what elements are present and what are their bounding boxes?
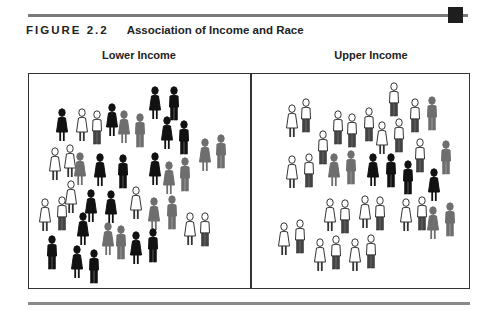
person-icon-white — [323, 198, 337, 236]
person-icon-black — [427, 168, 441, 206]
person-icon-white — [413, 138, 427, 176]
person-icon-black — [177, 120, 191, 158]
panel-label-upper-income: Upper Income — [271, 49, 471, 61]
person-icon-gray — [162, 161, 176, 199]
person-icon-white — [313, 238, 327, 276]
person-icon-white — [348, 238, 362, 276]
person-icon-white — [48, 147, 62, 185]
top-rule — [28, 14, 468, 17]
person-icon-white — [198, 212, 212, 250]
person-icon-black — [384, 153, 398, 191]
person-icon-white — [331, 110, 345, 148]
figure-caption: Association of Income and Race — [127, 24, 304, 36]
person-icon-gray — [425, 96, 439, 134]
person-icon-black — [401, 160, 415, 198]
person-icon-white — [75, 108, 89, 146]
person-icon-black — [93, 153, 107, 191]
person-icon-white — [345, 113, 359, 151]
person-icon-white — [285, 155, 299, 193]
person-icon-white — [302, 153, 316, 191]
person-icon-black — [160, 116, 174, 154]
person-icon-white — [285, 104, 299, 142]
figure-title: FIGURE 2.2Association of Income and Race — [26, 24, 304, 36]
person-icon-white — [183, 212, 197, 250]
person-icon-white — [277, 222, 291, 260]
person-icon-gray — [133, 113, 147, 151]
person-icon-black — [45, 235, 59, 273]
person-icon-gray — [327, 153, 341, 191]
person-icon-gray — [117, 110, 131, 148]
person-icon-gray — [439, 140, 453, 178]
person-icon-black — [366, 153, 380, 191]
person-icon-gray — [443, 202, 457, 240]
person-icon-gray — [101, 222, 115, 260]
person-icon-white — [293, 219, 307, 257]
person-icon-gray — [165, 195, 179, 233]
person-icon-black — [116, 154, 130, 192]
person-icon-white — [362, 107, 376, 145]
person-icon-gray — [178, 157, 192, 195]
person-icon-white — [373, 196, 387, 234]
person-icon-white — [399, 198, 413, 236]
bottom-rule — [28, 302, 470, 305]
person-icon-gray — [114, 225, 128, 263]
person-icon-white — [358, 195, 372, 233]
person-icon-white — [90, 110, 104, 148]
person-icon-black — [148, 152, 162, 190]
person-icon-gray — [214, 134, 228, 172]
person-icon-black — [70, 245, 84, 283]
panel-label-lower-income: Lower Income — [39, 49, 239, 61]
person-icon-white — [364, 234, 378, 272]
person-icon-black — [129, 231, 143, 269]
corner-marker — [448, 7, 463, 23]
figure-number: FIGURE 2.2 — [26, 24, 109, 36]
person-icon-white — [38, 198, 52, 236]
person-icon-white — [299, 98, 313, 136]
person-icon-white — [55, 196, 69, 234]
person-icon-gray — [426, 206, 440, 244]
person-icon-black — [87, 249, 101, 287]
person-icon-gray — [198, 138, 212, 176]
person-icon-white — [129, 186, 143, 224]
person-icon-black — [146, 228, 160, 266]
person-icon-white — [338, 199, 352, 237]
person-icon-white — [329, 235, 343, 273]
person-icon-white — [408, 98, 422, 136]
panel-divider — [250, 73, 252, 289]
person-icon-white — [392, 118, 406, 156]
person-icon-gray — [344, 150, 358, 188]
person-icon-black — [55, 108, 69, 146]
person-icon-white — [387, 82, 401, 120]
